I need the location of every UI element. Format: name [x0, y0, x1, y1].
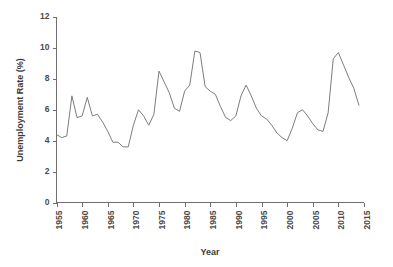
- x-axis-title: Year: [200, 247, 220, 257]
- unemployment-rate-line-chart: 024681012 195519601965197019751980198519…: [0, 0, 393, 267]
- y-axis-title: Unemployment Rate (%): [15, 58, 25, 162]
- axis-label-layer: Unemployment Rate (%) Year: [0, 0, 393, 267]
